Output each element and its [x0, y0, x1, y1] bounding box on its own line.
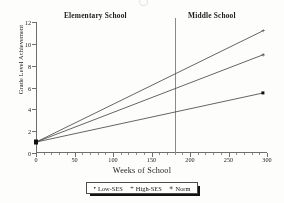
x-axis-tick-label: 300 [262, 156, 271, 163]
data-point-origin [34, 140, 38, 145]
data-point-norm: ∗ [261, 51, 266, 58]
x-axis-tick-label: 200 [185, 156, 194, 163]
x-axis-minor-tick [205, 153, 206, 155]
elementary-school-heading: Elementary School [64, 11, 127, 20]
series-line-low-ses [36, 93, 263, 142]
x-axis-minor-tick [121, 153, 122, 155]
data-point-high-ses: + [261, 27, 265, 34]
legend-item-norm[interactable]: ∗Norm [169, 185, 191, 192]
x-axis-minor-tick [213, 153, 214, 155]
x-axis-minor-tick [105, 153, 106, 155]
y-axis-tick-label: 8 [28, 62, 31, 69]
x-axis-minor-tick [236, 153, 237, 155]
y-axis-tick-label: 2 [28, 128, 31, 135]
x-axis-minor-tick [252, 153, 253, 155]
y-axis-tick [32, 44, 36, 45]
x-axis-minor-tick [59, 153, 60, 155]
series-lines [36, 22, 267, 153]
legend-marker-icon: + [130, 185, 134, 192]
y-axis-tick [32, 131, 36, 132]
legend-item-low-ses[interactable]: •Low-SES [94, 185, 123, 192]
y-axis-tick-label: 0 [28, 150, 31, 157]
series-line-norm [36, 55, 263, 142]
y-axis-tick [32, 66, 36, 67]
y-axis-tick [32, 88, 36, 89]
x-axis-minor-tick [82, 153, 83, 155]
y-axis-tick [32, 109, 36, 110]
x-axis-tick-label: 250 [224, 156, 233, 163]
y-axis-tick-label: 10 [25, 40, 31, 47]
x-axis-minor-tick [198, 153, 199, 155]
x-axis-minor-tick [98, 153, 99, 155]
x-axis-minor-tick [159, 153, 160, 155]
x-axis-minor-tick [175, 153, 176, 155]
chart-legend: •Low-SES+High-SES∗Norm [86, 182, 199, 194]
y-axis-title: Grade Level Achievement [17, 12, 24, 108]
legend-label: Low-SES [98, 185, 123, 192]
x-axis-minor-tick [67, 153, 68, 155]
x-axis-minor-tick [167, 153, 168, 155]
x-axis-minor-tick [144, 153, 145, 155]
x-axis-tick-label: 100 [108, 156, 117, 163]
x-axis-minor-tick [259, 153, 260, 155]
x-axis-minor-tick [128, 153, 129, 155]
middle-school-heading: Middle School [188, 11, 236, 20]
x-axis-minor-tick [136, 153, 137, 155]
legend-label: Norm [176, 185, 191, 192]
scan-edge-artifact [139, 0, 148, 6]
x-axis-minor-tick [90, 153, 91, 155]
data-point-low-ses [262, 91, 265, 94]
legend-item-high-ses[interactable]: +High-SES [130, 185, 162, 192]
plot-area: 024681012050100150200250300+∗ [36, 22, 267, 153]
legend-label: High-SES [136, 185, 162, 192]
chart-container: Elementary School Middle School Grade Le… [0, 0, 284, 203]
x-axis-minor-tick [244, 153, 245, 155]
x-axis-tick-label: 150 [147, 156, 156, 163]
y-axis-tick [32, 22, 36, 23]
x-axis-minor-tick [44, 153, 45, 155]
x-axis-minor-tick [221, 153, 222, 155]
x-axis-tick-label: 0 [34, 156, 37, 163]
legend-marker-icon: • [94, 185, 96, 192]
x-axis-minor-tick [51, 153, 52, 155]
y-axis-tick-label: 4 [28, 106, 31, 113]
x-axis-minor-tick [182, 153, 183, 155]
y-axis-tick-label: 12 [25, 19, 31, 26]
series-line-high-ses [36, 31, 263, 142]
legend-wrapper: •Low-SES+High-SES∗Norm [0, 182, 284, 194]
legend-marker-icon: ∗ [169, 185, 174, 192]
x-axis-tick-label: 50 [71, 156, 77, 163]
y-axis-tick-label: 6 [28, 84, 31, 91]
x-axis-title: Weeks of School [0, 166, 284, 175]
